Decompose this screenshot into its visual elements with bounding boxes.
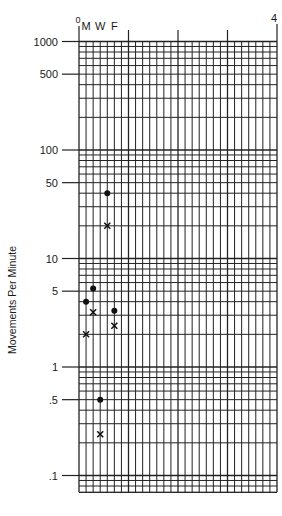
grid-lines xyxy=(79,42,277,493)
data-point-dot xyxy=(83,299,89,305)
day-label: F xyxy=(111,20,118,32)
y-tick-label: 500 xyxy=(40,68,58,80)
axis-ticks xyxy=(62,24,277,476)
y-tick-label: 1 xyxy=(52,361,58,373)
y-tick-label: 50 xyxy=(46,177,58,189)
y-tick-label: 5 xyxy=(52,285,58,297)
data-point-dot xyxy=(111,308,117,314)
x-tick-label: 4 xyxy=(271,12,277,24)
data-point-dot xyxy=(97,397,103,403)
y-axis-title-container: Movements Per Minute xyxy=(2,230,22,370)
y-tick-label: 1000 xyxy=(34,36,58,48)
day-label: W xyxy=(95,20,106,32)
y-tick-label: .1 xyxy=(49,470,58,482)
x-tick-label: 0 xyxy=(75,15,80,25)
standard-celeration-chart: 04MWF1000500100501051.5.1 Movements Per … xyxy=(0,0,282,516)
day-label: M xyxy=(81,20,90,32)
axis-tick-labels: 04MWF1000500100501051.5.1 xyxy=(34,12,277,482)
y-tick-label: 100 xyxy=(40,144,58,156)
data-point-dot xyxy=(104,190,110,196)
data-point-dot xyxy=(90,285,96,291)
y-tick-label: 10 xyxy=(46,253,58,265)
y-tick-label: .5 xyxy=(49,394,58,406)
y-axis-title: Movements Per Minute xyxy=(6,246,18,354)
chart-plot: 04MWF1000500100501051.5.1 xyxy=(0,0,282,516)
